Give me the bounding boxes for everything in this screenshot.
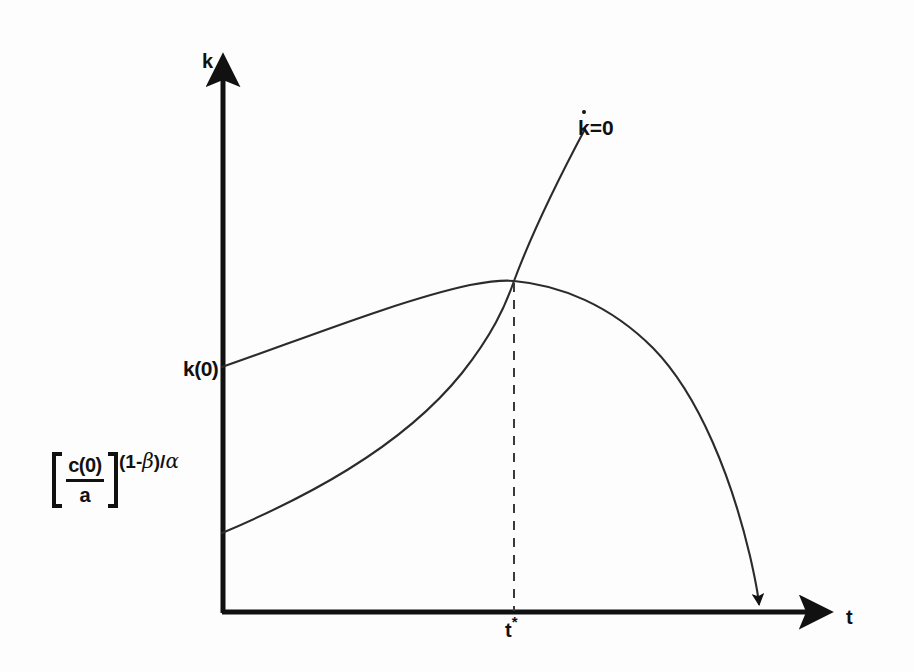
kdot-zero-label: k=0 [578,117,614,138]
kdot-variable-letter: k [578,116,590,139]
x-axis-label: t [846,607,853,627]
initial-capital-label: k(0) [183,358,218,379]
overdot-icon [582,110,586,114]
t-star-base: t [505,619,512,641]
y-axis-label: k [202,51,213,71]
kdot-zero-locus-curve [222,129,585,533]
t-star-label: t* [505,620,518,640]
fraction-bar-icon [66,479,104,482]
exponent-mid: )/ [154,451,166,472]
fraction: c(0) a [62,452,108,508]
capital-trajectory-curve [222,281,759,604]
t-star-superscript: * [512,613,518,630]
right-bracket-icon [108,452,118,508]
initial-level-expression: c(0) a (1-β)/α [52,452,179,508]
diagram-canvas [0,0,914,672]
left-bracket-icon [52,452,62,508]
exponent: (1-β)/α [119,449,179,473]
exponent-beta: β [142,449,154,473]
kdot-relation: =0 [590,116,614,139]
exponent-alpha: α [165,449,179,473]
fraction-denominator: a [79,483,90,507]
fraction-numerator: c(0) [68,454,102,478]
exponent-open: (1- [119,451,142,472]
phase-diagram-figure: k t k(0) k=0 t* c(0) a (1-β)/α [0,0,914,672]
k-dot-variable: k [578,117,590,138]
bracketed-fraction: c(0) a [52,452,118,508]
